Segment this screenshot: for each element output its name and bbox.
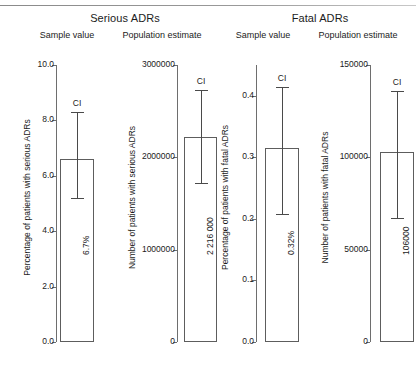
y-tick-label-1-1: 1000000 bbox=[115, 244, 175, 254]
y-tick-label-0-4: 8.0 bbox=[0, 114, 54, 124]
panel-serious-sample: Percentage of patients with serious ADRs… bbox=[0, 0, 105, 371]
y-axis-title-1: Number of patients with serious ADRs bbox=[127, 59, 137, 336]
y-tick-label-1-3: 3000000 bbox=[115, 59, 175, 69]
y-tick-label-0-0: 0.0 bbox=[0, 336, 54, 346]
ci-cap-upper-fatal-sample bbox=[276, 87, 289, 88]
ci-label-serious-sample: CI bbox=[57, 98, 97, 108]
y-tick-label-2-1: 0.1 bbox=[194, 274, 254, 284]
y-tick-label-0-2: 4.0 bbox=[0, 225, 54, 235]
y-tick-label-0-1: 2.0 bbox=[0, 281, 54, 291]
ci-stem-serious-sample bbox=[77, 112, 78, 198]
y-axis-title-0: Percentage of patients with serious ADRs bbox=[22, 59, 32, 336]
y-tick-label-0-3: 6.0 bbox=[0, 170, 54, 180]
ci-cap-lower-fatal-sample bbox=[276, 214, 289, 215]
y-tick-label-3-1: 50000 bbox=[308, 244, 368, 254]
ci-cap-lower-serious-sample bbox=[71, 198, 84, 199]
y-tick-label-1-2: 2000000 bbox=[115, 151, 175, 161]
ci-label-fatal-population: CI bbox=[377, 77, 416, 87]
y-axis-title-3: Number of patients with fatal ADRs bbox=[320, 59, 330, 336]
y-tick-label-3-2: 100000 bbox=[308, 151, 368, 161]
y-tick-label-2-2: 0.2 bbox=[194, 213, 254, 223]
panel-fatal-population: Number of patients with fatal ADRs 05000… bbox=[308, 0, 416, 371]
y-tick-label-1-0: 0 bbox=[115, 336, 175, 346]
ci-stem-serious-population bbox=[201, 90, 202, 183]
y-axis-line-1 bbox=[177, 65, 178, 342]
ci-stem-fatal-population bbox=[397, 91, 398, 218]
panel-serious-population: Number of patients with serious ADRs 010… bbox=[105, 0, 210, 371]
ci-cap-lower-serious-population bbox=[195, 183, 208, 184]
y-tick-label-3-3: 150000 bbox=[308, 59, 368, 69]
bar-value-label-fatal-sample: 0.32% bbox=[286, 231, 296, 255]
y-tick-label-0-5: 10.0 bbox=[0, 59, 54, 69]
bar-value-label-serious-sample: 6.7% bbox=[81, 236, 91, 255]
y-tick-label-3-0: 0 bbox=[308, 336, 368, 346]
panel-fatal-sample: Percentage of patients with fatal ADRs 0… bbox=[208, 0, 308, 371]
y-axis-line-2 bbox=[256, 65, 257, 342]
y-tick-label-2-4: 0.4 bbox=[194, 90, 254, 100]
y-tick-label-2-3: 0.3 bbox=[194, 151, 254, 161]
ci-cap-lower-fatal-population bbox=[391, 218, 404, 219]
ci-cap-upper-serious-sample bbox=[71, 112, 84, 113]
bar-value-label-fatal-population: 106000 bbox=[401, 227, 411, 255]
ci-label-fatal-sample: CI bbox=[262, 73, 302, 83]
ci-cap-upper-fatal-population bbox=[391, 91, 404, 92]
y-axis-title-2: Percentage of patients with fatal ADRs bbox=[220, 59, 230, 336]
y-axis-line-3 bbox=[370, 65, 371, 342]
figure-canvas: Serious ADRs Sample value Population est… bbox=[0, 0, 416, 371]
ci-stem-fatal-sample bbox=[282, 87, 283, 214]
y-tick-label-2-0: 0.0 bbox=[194, 336, 254, 346]
